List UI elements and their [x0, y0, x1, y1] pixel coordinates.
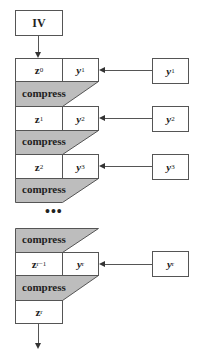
ellipsis: •••: [45, 204, 63, 220]
block-y2: y2: [62, 106, 99, 131]
compress-label: compress: [22, 281, 66, 293]
state-z1: z1: [15, 106, 63, 131]
arrow-y2-in: [105, 118, 152, 119]
input-y3: y3: [152, 154, 189, 180]
state-z0: z0: [15, 58, 63, 82]
y-sub: 3: [81, 163, 85, 171]
compress-label: compress: [22, 233, 66, 245]
compress-label: compress: [22, 135, 66, 147]
state-z-r: zr: [15, 300, 63, 324]
input-yr: yr: [152, 251, 189, 277]
input-sub: 3: [171, 163, 175, 171]
arrow-yr-in: [105, 264, 152, 265]
arrowhead-left-icon: [99, 67, 105, 73]
z-sub: 2: [40, 163, 44, 171]
block-y1: y1: [62, 58, 99, 82]
compress-label: compress: [22, 87, 66, 99]
compress-label: compress: [22, 183, 66, 195]
z-sub: 0: [40, 66, 44, 74]
input-sub: r: [172, 260, 174, 268]
state-z2: z2: [15, 154, 63, 179]
arrow-iv-to-z0: [38, 36, 39, 53]
arrow-y1-in: [105, 70, 152, 71]
arrowhead-left-icon: [99, 261, 105, 267]
block-y3: y3: [62, 154, 99, 179]
y-sub: 1: [81, 66, 85, 74]
iv-box: IV: [15, 10, 63, 36]
state-z-r-minus-1: zr−1: [15, 252, 63, 276]
block-yr: yr: [62, 252, 99, 276]
y-sub: 2: [81, 115, 85, 123]
arrowhead-left-icon: [99, 115, 105, 121]
input-y1: y1: [152, 58, 189, 84]
arrowhead-left-icon: [99, 163, 105, 169]
z-sub: 1: [40, 115, 44, 123]
input-sub: 2: [171, 115, 175, 123]
arrow-output: [38, 324, 39, 344]
iv-label: IV: [32, 16, 45, 31]
z-sub: r: [40, 308, 42, 316]
arrow-y3-in: [105, 166, 152, 167]
z-sub: r−1: [37, 260, 47, 268]
input-y2: y2: [152, 106, 189, 132]
input-sub: 1: [171, 67, 175, 75]
y-sub: r: [82, 260, 84, 268]
arrowhead-down-icon: [35, 343, 41, 349]
